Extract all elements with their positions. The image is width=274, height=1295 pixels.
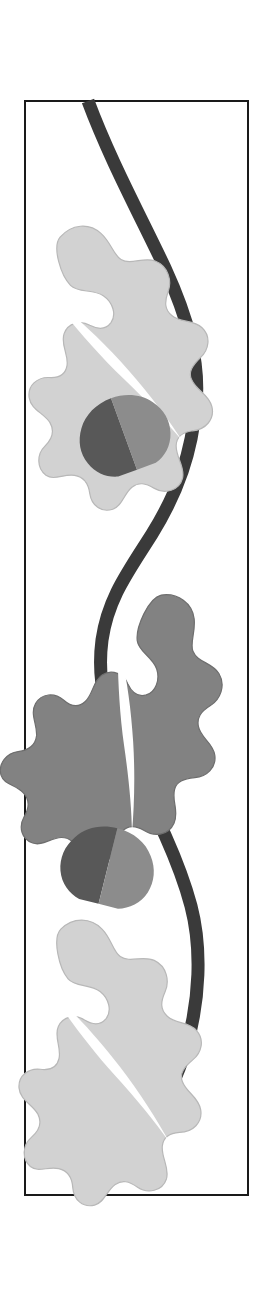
botanical-border-illustration <box>0 0 274 1295</box>
artwork-canvas: Decorative Botanical Vine Border Panel V… <box>0 0 274 1295</box>
